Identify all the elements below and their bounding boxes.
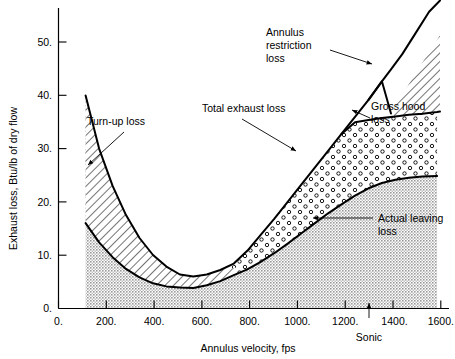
- actual-leaving-loss-line-1: Actual leaving: [378, 212, 444, 224]
- chart-svg: 50. 40. 30. 20. 10. 0. 0. 200. 400. 600.: [0, 0, 455, 359]
- x-axis-title: Annulus velocity, fps: [201, 342, 296, 354]
- x-tick-label-1000: 1000.: [284, 315, 310, 327]
- y-tick-label-30: 30.: [37, 142, 52, 154]
- gross-hood-loss-line-1: Gross hood: [371, 100, 425, 112]
- x-tick-label-800: 800.: [239, 315, 259, 327]
- x-tick-label-0: 0.: [54, 315, 63, 327]
- x-tick-label-200: 200.: [96, 315, 116, 327]
- x-tick-label-1200: 1200.: [332, 315, 358, 327]
- total-exhaust-loss-leader: [242, 119, 296, 151]
- annulus-restriction-loss-leader: [330, 50, 372, 64]
- annulus-restriction-loss-line-2: restriction: [266, 39, 312, 51]
- x-tick-label-1400: 1400.: [381, 315, 407, 327]
- actual-leaving-loss-line-2: loss: [378, 225, 397, 237]
- x-tick-label-1600: 1600.: [428, 315, 454, 327]
- annulus-restriction-loss-line-3: loss: [266, 52, 285, 64]
- y-axis-title: Exhaust loss, Btu/lb of dry flow: [7, 107, 19, 250]
- y-tick-label-20: 20.: [37, 196, 52, 208]
- y-tick-label-40: 40.: [37, 89, 52, 101]
- annulus-restriction-loss-line-1: Annulus: [266, 26, 304, 38]
- exhaust-loss-chart: 50. 40. 30. 20. 10. 0. 0. 200. 400. 600.: [0, 0, 455, 359]
- gross-hood-loss-line-2: loss: [371, 113, 390, 125]
- x-tick-label-600: 600.: [192, 315, 212, 327]
- annotation-annulus-restriction-loss: Annulus restriction loss: [266, 26, 372, 64]
- y-tick-label-50: 50.: [37, 36, 52, 48]
- annotation-total-exhaust-loss: Total exhaust loss: [202, 102, 296, 151]
- total-exhaust-loss-label: Total exhaust loss: [202, 102, 285, 114]
- y-tick-marks: [59, 42, 67, 255]
- sonic-label: Sonic: [356, 331, 382, 343]
- y-tick-label-10: 10.: [37, 249, 52, 261]
- y-tick-label-0: 0.: [43, 302, 52, 314]
- plot-area: [86, 1, 440, 309]
- turn-up-loss-label: Turn-up loss: [87, 115, 145, 127]
- x-tick-label-400: 400.: [144, 315, 164, 327]
